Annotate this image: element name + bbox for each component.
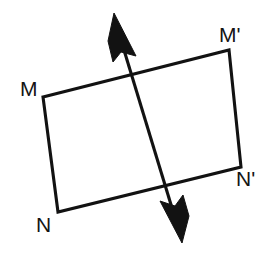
- vertex-label-n-prime: N': [236, 167, 255, 190]
- vertex-label-m-prime: M': [219, 23, 241, 46]
- arrow-head-down-icon: [160, 195, 189, 243]
- arrow-head-up-icon: [108, 13, 136, 62]
- figure-canvas: M M' N N': [0, 0, 276, 270]
- geometry-figure: M M' N N': [0, 0, 276, 270]
- vertex-label-n: N: [36, 213, 51, 236]
- vertex-label-m: M: [20, 77, 38, 100]
- line-of-reflection: [117, 27, 179, 231]
- rectangle-shape: [43, 50, 241, 212]
